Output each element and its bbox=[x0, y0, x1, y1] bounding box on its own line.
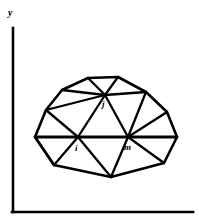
mesh-diagram: y j i bbox=[0, 0, 199, 223]
vertex-label-m: m bbox=[124, 142, 131, 152]
mesh-edge-m-b8 bbox=[128, 137, 164, 163]
mesh-edge-b1-i bbox=[46, 110, 78, 137]
mesh-edge-b5-j bbox=[105, 92, 146, 95]
mesh-edge-b2-j bbox=[62, 90, 105, 95]
mesh-edge-j-m bbox=[105, 95, 128, 137]
figure-canvas: y j i bbox=[0, 0, 199, 223]
mesh-edge-b4-j bbox=[105, 77, 118, 95]
y-axis-label: y bbox=[7, 7, 13, 18]
vertex-label-i: i bbox=[75, 143, 78, 153]
